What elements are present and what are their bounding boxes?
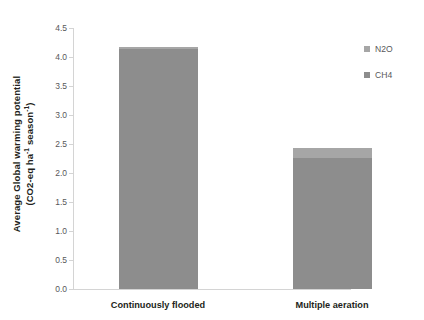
- y-axis-tick-mark: [69, 260, 73, 261]
- y-axis-title-line2: (CO2-eq ha-1 season-1): [23, 102, 36, 205]
- y-axis-title-line1: Average Global warming potential: [10, 76, 23, 232]
- y-axis-title: (CO2-eq ha-1 season-1) Average Global wa…: [0, 0, 46, 300]
- plot-area: 0.00.51.01.52.02.53.03.54.04.5 Continuou…: [73, 28, 351, 290]
- bar-1: [119, 47, 198, 289]
- y-axis-tick-label: 0.0: [55, 284, 67, 294]
- y-axis-tick-mark: [69, 57, 73, 58]
- y-axis-tick-label: 4.0: [55, 52, 67, 62]
- bar-segment-CH4: [293, 158, 372, 289]
- y-axis-tick-label: 1.0: [55, 226, 67, 236]
- bar-segment-N2O: [293, 148, 372, 158]
- y-axis-title-sup1: -1: [23, 148, 30, 154]
- bar-segment-CH4: [119, 49, 198, 289]
- y-axis-tick-label: 2.0: [55, 168, 67, 178]
- legend-item-N2O[interactable]: N2O: [364, 44, 422, 54]
- y-axis-tick-label: 4.5: [55, 23, 67, 33]
- bar-2: [293, 148, 372, 289]
- legend-item-CH4[interactable]: CH4: [364, 70, 422, 80]
- legend-swatch-icon: [364, 46, 370, 52]
- y-axis-tick-mark: [69, 115, 73, 116]
- y-axis-tick-mark: [69, 173, 73, 174]
- y-axis-tick-label: 3.0: [55, 110, 67, 120]
- legend-label: CH4: [375, 70, 392, 80]
- y-axis-tick-label: 2.5: [55, 139, 67, 149]
- y-axis-tick-mark: [69, 289, 73, 290]
- x-axis-label-2: Multiple aeration: [296, 300, 369, 310]
- x-axis-line: [73, 289, 351, 290]
- y-axis-tick-mark: [69, 231, 73, 232]
- y-axis-title-sup2: -1: [23, 106, 30, 112]
- y-axis-tick-mark: [69, 144, 73, 145]
- legend-swatch-icon: [364, 72, 370, 78]
- y-axis-tick-label: 3.5: [55, 81, 67, 91]
- bar-segment-N2O: [119, 47, 198, 50]
- y-axis-tick-mark: [69, 28, 73, 29]
- chart-legend: N2OCH4: [364, 44, 422, 96]
- legend-label: N2O: [375, 44, 393, 54]
- y-axis-tick-mark: [69, 202, 73, 203]
- x-axis-label-1: Continuously flooded: [111, 300, 205, 310]
- chart-figure: (CO2-eq ha-1 season-1) Average Global wa…: [0, 0, 424, 320]
- y-axis-line: [73, 28, 74, 290]
- y-axis-tick-mark: [69, 86, 73, 87]
- y-axis-tick-label: 1.5: [55, 197, 67, 207]
- y-axis-tick-label: 0.5: [55, 255, 67, 265]
